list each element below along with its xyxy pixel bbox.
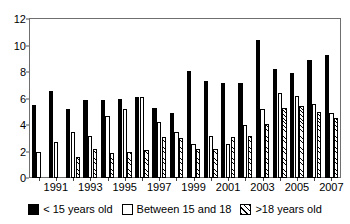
bar: [273, 69, 277, 178]
bar-group: [237, 19, 254, 178]
bar: [66, 109, 70, 178]
x-tick-label: 2007: [319, 181, 343, 194]
bar: [157, 122, 161, 178]
bar: [127, 152, 131, 179]
bar: [334, 118, 338, 178]
bar: [179, 138, 183, 178]
bar-group: [30, 19, 47, 178]
bar: [278, 93, 282, 178]
x-tick-mark: [280, 178, 281, 181]
bar: [54, 142, 58, 178]
x-tick-mark: [142, 178, 143, 181]
legend-swatch-icon: [122, 204, 133, 215]
y-tick-label: 6: [4, 93, 26, 104]
bar-group: [99, 19, 116, 178]
bar: [312, 104, 316, 178]
legend-label: < 15 years old: [43, 204, 112, 215]
bar: [152, 108, 156, 178]
bar: [238, 83, 242, 178]
bar: [83, 100, 87, 178]
x-tick-label: 1993: [78, 181, 102, 194]
bar: [110, 153, 114, 178]
bar: [32, 105, 36, 178]
bar: [187, 71, 191, 178]
bar: [248, 136, 252, 178]
x-tick-mark: [176, 178, 177, 181]
bar-group: [64, 19, 81, 178]
legend-item: >18 years old: [240, 204, 321, 215]
chart-legend: < 15 years oldBetween 15 and 18>18 years…: [0, 199, 350, 219]
bar: [265, 124, 269, 178]
bar-group: [306, 19, 323, 178]
bar: [307, 60, 311, 178]
legend-label: Between 15 and 18: [137, 204, 232, 215]
plot-area: [30, 19, 340, 178]
x-tick-label: 2005: [285, 181, 309, 194]
legend-item: Between 15 and 18: [122, 204, 232, 215]
bar-chart: 024681012 199119931995199719992001200320…: [0, 0, 350, 224]
bar: [260, 109, 264, 178]
legend-item: < 15 years old: [28, 204, 112, 215]
bar-group: [219, 19, 236, 178]
bar: [329, 113, 333, 178]
x-tick-mark: [211, 178, 212, 181]
bar: [290, 73, 294, 178]
bar-group: [151, 19, 168, 178]
y-tick-label: 2: [4, 146, 26, 157]
bar-group: [202, 19, 219, 178]
bar: [140, 97, 144, 178]
bar: [123, 109, 127, 178]
bar: [317, 112, 321, 178]
legend-swatch-icon: [28, 204, 39, 215]
x-tick-label: 1995: [112, 181, 136, 194]
bar: [196, 149, 200, 178]
y-axis: 024681012: [0, 0, 26, 224]
bar: [135, 97, 139, 178]
x-tick-mark: [245, 178, 246, 181]
y-tick-label: 0: [4, 173, 26, 184]
x-tick-label: 2003: [250, 181, 274, 194]
legend-label: >18 years old: [255, 204, 321, 215]
x-tick-mark: [73, 178, 74, 181]
y-tick-label: 4: [4, 120, 26, 131]
bar: [93, 149, 97, 178]
x-tick-mark: [39, 178, 40, 181]
bar: [174, 132, 178, 178]
bar: [213, 149, 217, 178]
x-axis: 199119931995199719992001200320052007: [30, 178, 340, 196]
bar: [144, 150, 148, 178]
x-tick-label: 2001: [216, 181, 240, 194]
bar: [71, 132, 75, 178]
y-tick-label: 8: [4, 67, 26, 78]
legend-swatch-icon: [240, 204, 251, 215]
bar: [221, 83, 225, 178]
x-tick-label: 1999: [181, 181, 205, 194]
bar-group: [271, 19, 288, 178]
bar: [36, 152, 40, 179]
bar-group: [116, 19, 133, 178]
bar-group: [82, 19, 99, 178]
x-tick-mark: [314, 178, 315, 181]
bar: [204, 81, 208, 178]
bar: [49, 91, 53, 178]
bar: [105, 116, 109, 178]
bar: [118, 99, 122, 179]
bar: [88, 136, 92, 178]
bar: [299, 106, 303, 178]
bar-group: [168, 19, 185, 178]
bar-group: [47, 19, 64, 178]
x-tick-label: 1997: [147, 181, 171, 194]
bar-group: [323, 19, 340, 178]
bar: [243, 125, 247, 178]
bar: [209, 136, 213, 178]
bar-group: [288, 19, 305, 178]
y-tick-label: 12: [4, 14, 26, 25]
bar: [162, 137, 166, 178]
x-tick-mark: [108, 178, 109, 181]
bar-group: [133, 19, 150, 178]
bar: [282, 108, 286, 178]
x-tick-label: 1991: [44, 181, 68, 194]
bar: [256, 40, 260, 178]
bar: [226, 144, 230, 178]
y-tick-label: 10: [4, 40, 26, 51]
